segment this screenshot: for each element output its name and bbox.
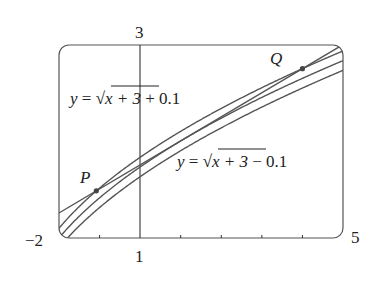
x-min-label: −2 (25, 231, 43, 250)
svg-text:y = √x + 3 + 0.1: y = √x + 3 + 0.1 (68, 89, 180, 108)
eq-lower-tail: − 0.1 (248, 152, 287, 171)
point-q (300, 66, 305, 71)
eq-lower-radicand: x + 3 (211, 152, 248, 171)
eq-lower-y: y (175, 152, 185, 171)
eq-upper-radicand: x + 3 (104, 89, 141, 108)
eq-lower-equals: = (185, 152, 203, 171)
eq-upper-tail: + 0.1 (141, 89, 180, 108)
eq-upper-equals: = (78, 89, 96, 108)
chart: 3 1 −2 5 P Q y = √x + 3 + 0.1 y = √x + 3… (0, 0, 381, 283)
point-p (94, 188, 99, 193)
plot-frame (59, 45, 343, 238)
eq-upper-y: y (68, 89, 78, 108)
point-p-label: P (79, 168, 90, 187)
x-max-label: 5 (351, 228, 360, 247)
equation-lower: y = √x + 3 − 0.1 (175, 149, 287, 171)
svg-text:y = √x + 3 − 0.1: y = √x + 3 − 0.1 (175, 152, 287, 171)
curve-middle (59, 61, 343, 238)
curves (59, 45, 343, 248)
equation-upper: y = √x + 3 + 0.1 (68, 86, 180, 108)
y-max-label: 3 (135, 23, 144, 42)
y-min-label: 1 (135, 247, 144, 266)
point-q-label: Q (270, 49, 282, 68)
